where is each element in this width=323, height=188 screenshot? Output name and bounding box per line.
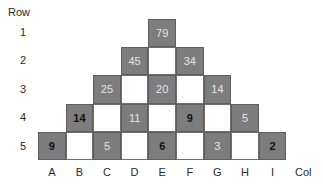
cell-f2: 34 <box>176 47 204 75</box>
cell-e5: 6 <box>148 132 176 160</box>
cell-value: 20 <box>156 83 168 95</box>
cell-value: 45 <box>128 55 140 67</box>
cell-g4 <box>204 104 232 132</box>
col-label-g: G <box>204 166 232 178</box>
cell-e3: 20 <box>148 75 176 103</box>
cell-value: 2 <box>270 140 276 152</box>
cell-d3 <box>121 75 149 103</box>
cell-c4 <box>93 104 121 132</box>
cell-b4: 14 <box>66 104 94 132</box>
cell-f5 <box>176 132 204 160</box>
cell-value: 11 <box>129 112 140 124</box>
col-label-e: E <box>148 166 176 178</box>
cell-a5: 9 <box>38 132 66 160</box>
col-label-h: H <box>231 166 259 178</box>
row-axis-title: Row <box>8 6 30 18</box>
cell-value: 25 <box>101 83 113 95</box>
col-label-c: C <box>93 166 121 178</box>
cell-c5: 5 <box>93 132 121 160</box>
row-label-3: 3 <box>16 83 30 95</box>
cell-value: 34 <box>184 55 196 67</box>
cell-value: 9 <box>187 112 193 124</box>
cell-value: 14 <box>73 112 85 124</box>
cell-h4: 5 <box>231 104 259 132</box>
cell-f3 <box>176 75 204 103</box>
cell-value: 3 <box>214 140 220 152</box>
col-label-f: F <box>176 166 204 178</box>
cell-f4: 9 <box>176 104 204 132</box>
row-label-4: 4 <box>16 111 30 123</box>
cell-d2: 45 <box>121 47 149 75</box>
col-label-i: I <box>259 166 287 178</box>
cell-value: 9 <box>49 140 55 152</box>
cell-value: 5 <box>242 112 248 124</box>
row-label-2: 2 <box>16 54 30 66</box>
cell-g5: 3 <box>204 132 232 160</box>
cell-i5: 2 <box>259 132 287 160</box>
cell-e4 <box>148 104 176 132</box>
cell-d4: 11 <box>121 104 149 132</box>
col-label-d: D <box>121 166 149 178</box>
cell-d5 <box>121 132 149 160</box>
cell-e2 <box>148 47 176 75</box>
cell-value: 14 <box>211 83 223 95</box>
row-label-5: 5 <box>16 140 30 152</box>
cell-value: 5 <box>104 140 110 152</box>
cell-value: 6 <box>159 140 165 152</box>
col-axis-title: Col <box>295 166 312 178</box>
cell-e1: 79 <box>148 19 176 47</box>
cell-g3: 14 <box>204 75 232 103</box>
row-label-1: 1 <box>16 26 30 38</box>
col-label-a: A <box>38 166 66 178</box>
cell-value: 79 <box>156 27 168 39</box>
col-label-b: B <box>66 166 94 178</box>
cell-h5 <box>231 132 259 160</box>
cell-c3: 25 <box>93 75 121 103</box>
cell-b5 <box>66 132 94 160</box>
